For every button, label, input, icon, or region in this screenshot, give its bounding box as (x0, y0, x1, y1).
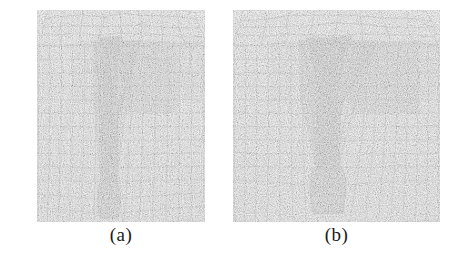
mesh-panel-a (37, 10, 205, 222)
mesh-diagram-a (37, 10, 205, 222)
figure-root: (a) (b) (0, 0, 465, 268)
mesh-diagram-b (233, 10, 440, 222)
panel-caption-b: (b) (233, 224, 440, 246)
mesh-panel-b (233, 10, 440, 222)
panel-caption-a: (a) (37, 224, 205, 246)
